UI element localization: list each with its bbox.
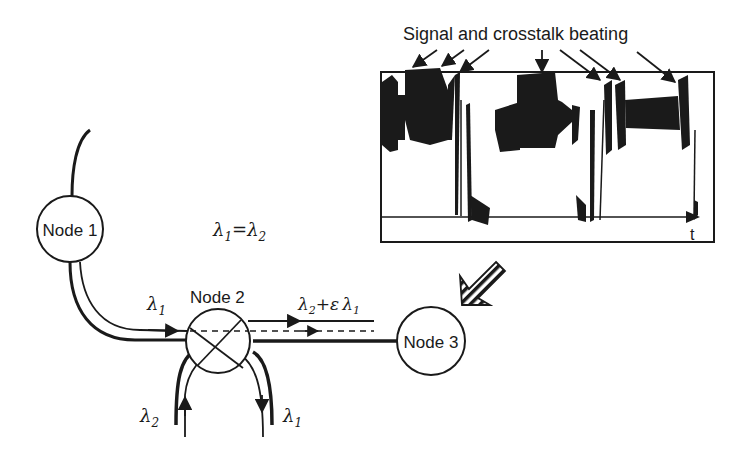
node-1: Node 1 <box>37 196 103 262</box>
node-2-label: Node 2 <box>190 288 245 307</box>
node-3-label: Node 3 <box>404 333 459 352</box>
lambda1-drop-label: λ1 <box>282 405 302 430</box>
lambda2-add-label: λ2 <box>139 405 159 430</box>
crosstalk-diagram: t Signal and crosstalk beating <box>0 0 736 462</box>
beating-annotation: Signal and crosstalk beating <box>403 24 628 44</box>
wavelength-equation: λ1=λ2 <box>212 219 266 244</box>
drop-path <box>240 354 263 437</box>
scope-panel: t <box>381 68 714 243</box>
fiber-input-node1 <box>72 130 90 196</box>
node-3: Node 3 <box>397 307 465 375</box>
fiber-node1-node2-inner <box>80 262 187 331</box>
time-axis-label: t <box>690 226 695 243</box>
hatched-arrow-icon <box>460 262 505 305</box>
fiber-node1-node2-outer <box>70 262 190 340</box>
node-2 <box>186 309 250 373</box>
lambda1-input-label: λ1 <box>146 293 166 318</box>
node-1-label: Node 1 <box>43 221 98 240</box>
output-label: λ2+ελ1 <box>297 294 360 317</box>
